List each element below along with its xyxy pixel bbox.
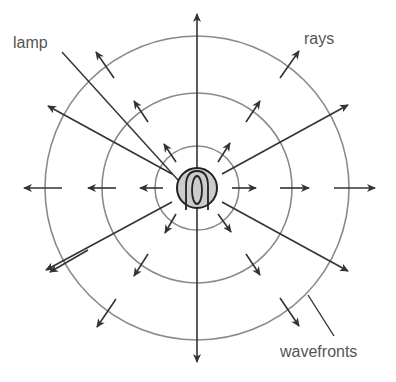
lamp-label: lamp — [13, 35, 48, 51]
wavefronts-leader-line — [308, 295, 334, 336]
lamp-icon — [177, 168, 217, 210]
ray-lower-left — [46, 202, 172, 270]
lamp-leader-line — [62, 52, 178, 180]
ray-upper-left — [48, 106, 172, 174]
rays-label: rays — [304, 31, 334, 47]
ray-upper-right — [222, 105, 348, 174]
ray-lower-right — [222, 202, 348, 271]
wavefronts-label: wavefronts — [280, 344, 357, 360]
diagram-canvas — [0, 0, 396, 382]
